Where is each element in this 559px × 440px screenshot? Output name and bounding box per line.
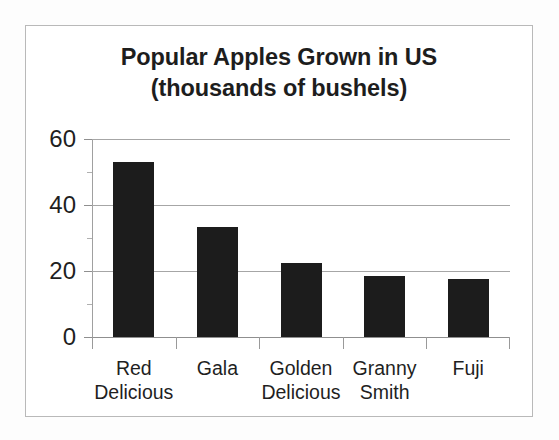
- chart-title-line-2: (thousands of bushels): [30, 73, 528, 104]
- bar-fuji: [448, 279, 489, 337]
- bar-gala: [197, 227, 238, 338]
- x-axis-tick-4: [426, 337, 427, 349]
- bar-granny-smith: [364, 276, 405, 337]
- y-axis-tick-label-40: 40: [30, 193, 76, 217]
- chart-figure: Popular Apples Grown in US (thousands of…: [0, 0, 559, 440]
- plot-area: [92, 139, 510, 337]
- chart-title-line-1: Popular Apples Grown in US: [30, 42, 528, 73]
- x-axis-tick-3: [343, 337, 344, 349]
- y-axis-tick-label-20: 20: [30, 259, 76, 283]
- category-label-line: Smith: [336, 380, 434, 404]
- y-axis-tick-label-60: 60: [30, 127, 76, 151]
- x-axis-tick-1: [176, 337, 177, 349]
- x-axis-tick-0: [92, 337, 93, 349]
- category-label-line: Delicious: [85, 380, 183, 404]
- x-axis-tick-2: [259, 337, 260, 349]
- chart-title: Popular Apples Grown in US (thousands of…: [30, 42, 528, 104]
- category-label-line: Fuji: [419, 356, 517, 380]
- bar-red-delicious: [113, 162, 154, 337]
- x-axis-category-label-fuji: Fuji: [419, 356, 517, 380]
- gridline-40: [92, 205, 510, 206]
- x-axis-tick-5: [509, 337, 510, 349]
- y-axis-tick-label-0: 0: [30, 325, 76, 349]
- bar-golden-delicious: [281, 263, 322, 337]
- gridline-60: [92, 139, 510, 140]
- x-axis-line: [92, 337, 510, 338]
